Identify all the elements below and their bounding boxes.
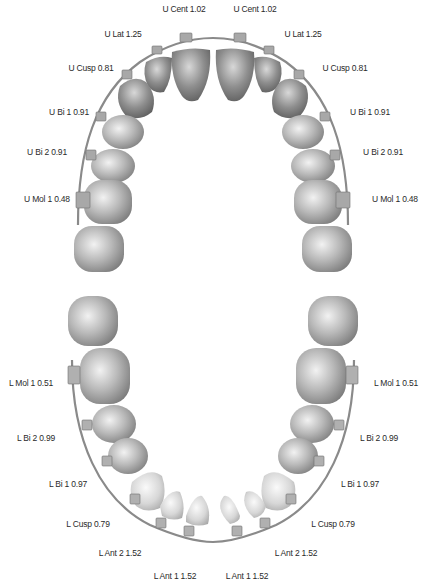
label-l-bi2-right: L Bi 2 0.99 (360, 434, 398, 443)
label-l-bi1-left: L Bi 1 0.97 (49, 480, 87, 489)
arches-graphic (0, 0, 426, 581)
label-u-lat-right: U Lat 1.25 (284, 30, 321, 39)
label-u-cusp-left: U Cusp 0.81 (68, 64, 113, 73)
tooth-l-bi2-right (290, 405, 334, 443)
tooth-l-ant1-right (220, 496, 240, 524)
lower-teeth (68, 296, 358, 526)
label-u-bi2-left: U Bi 2 0.91 (27, 148, 67, 157)
label-l-cusp-right: L Cusp 0.79 (311, 520, 354, 529)
tooth-u-mol1-right (294, 180, 342, 224)
label-u-mol1-right: U Mol 1 0.48 (372, 195, 418, 204)
tooth-u-mol2-right (302, 226, 352, 272)
tooth-u-cent-left (172, 48, 211, 101)
tooth-l-cusp-right (261, 472, 295, 510)
label-l-cusp-left: L Cusp 0.79 (66, 520, 109, 529)
label-u-bi2-right: U Bi 2 0.91 (363, 148, 403, 157)
label-l-mol1-right: L Mol 1 0.51 (374, 379, 418, 388)
tooth-u-bi2-right (291, 149, 335, 183)
label-u-bi1-right: U Bi 1 0.91 (350, 108, 390, 117)
tooth-l-ant1-left (186, 496, 209, 526)
label-l-ant2-right: L Ant 2 1.52 (275, 549, 318, 558)
dental-arch-diagram: U Cent 1.02 U Lat 1.25 U Cusp 0.81 U Bi … (0, 0, 426, 581)
label-u-cent-right: U Cent 1.02 (233, 5, 276, 14)
label-l-bi2-left: L Bi 2 0.99 (17, 434, 55, 443)
tooth-l-bi2-left (92, 405, 136, 443)
tooth-l-mol2-left (68, 296, 118, 346)
upper-teeth (74, 48, 352, 272)
label-u-mol1-left: U Mol 1 0.48 (24, 195, 70, 204)
tooth-u-bi1-left (102, 115, 144, 149)
label-l-mol1-left: L Mol 1 0.51 (9, 379, 53, 388)
tooth-l-cusp-left (131, 472, 165, 510)
label-l-ant1-left: L Ant 1 1.52 (154, 572, 197, 581)
label-l-ant1-right: L Ant 1 1.52 (226, 572, 269, 581)
label-u-cusp-right: U Cusp 0.81 (322, 64, 367, 73)
label-l-ant2-left: L Ant 2 1.52 (99, 549, 142, 558)
tooth-u-bi1-right (282, 115, 324, 149)
tooth-u-mol2-left (74, 226, 124, 272)
label-l-bi1-right: L Bi 1 0.97 (341, 480, 379, 489)
tooth-l-bi1-left (108, 438, 148, 474)
tooth-u-mol1-left (84, 180, 132, 224)
tooth-l-mol1-left (80, 348, 130, 404)
tooth-u-bi2-left (91, 149, 135, 183)
label-u-cent-left: U Cent 1.02 (162, 5, 205, 14)
tooth-l-mol1-right (296, 348, 346, 404)
tooth-l-bi1-right (278, 438, 318, 474)
tooth-l-mol2-right (308, 296, 358, 346)
label-u-bi1-left: U Bi 1 0.91 (49, 108, 89, 117)
label-u-lat-left: U Lat 1.25 (104, 30, 141, 39)
tooth-u-cent-right (216, 48, 255, 101)
